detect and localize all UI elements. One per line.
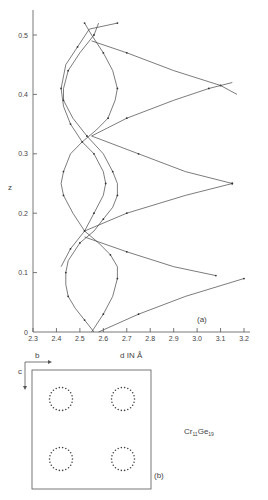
c-axis-label: c [18, 367, 22, 376]
x-tick-label: 2.5 [75, 335, 85, 342]
y-tick-label: 0.2 [18, 210, 28, 217]
curve-branch-low-upper [85, 237, 216, 276]
y-tick-label: 0.1 [18, 269, 28, 276]
figure: 00.10.20.30.40.5 2.32.42.52.62.72.82.93.… [0, 0, 268, 500]
x-tick-label: 2.8 [145, 335, 155, 342]
c-arrowhead-icon [23, 386, 27, 390]
curve-branch-top [92, 41, 237, 95]
x-tick-label: 2.6 [98, 335, 108, 342]
unit-cell-box [32, 370, 151, 489]
b-arrowhead-icon [48, 360, 52, 364]
curve-branch-top-lower [92, 83, 233, 137]
x-tick-label: 2.4 [52, 335, 62, 342]
y-axis-label: z [8, 183, 12, 192]
x-axis-label: d IN Å [120, 351, 143, 360]
panel-b: b c (b) Cr11Ge19 [18, 351, 214, 489]
curve-branch-bottom [99, 279, 244, 333]
panel-a-label: (a) [197, 315, 207, 324]
compound-formula: Cr11Ge19 [184, 427, 214, 437]
x-tick-label: 2.3 [28, 335, 38, 342]
y-tick-label: 0.5 [18, 32, 28, 39]
x-tick-label: 2.9 [169, 335, 179, 342]
curve-branch-mid-upper [92, 136, 233, 184]
curve-helix-3 [61, 23, 117, 267]
curve-helix-1 [64, 23, 118, 332]
y-tick-label: 0.4 [18, 91, 28, 98]
y-tick-label: 0.3 [18, 150, 28, 157]
x-tick-label: 3.0 [192, 335, 202, 342]
y-ticks: 00.10.20.30.40.5 [18, 32, 37, 336]
curve-branch-mid-lower [85, 184, 233, 232]
helix-projections [49, 387, 136, 471]
x-ticks: 2.32.42.52.62.72.82.93.03.13.2 [28, 328, 249, 342]
x-tick-label: 3.1 [216, 335, 226, 342]
curve-helix-2 [61, 23, 117, 332]
panel-b-label: (b) [154, 471, 164, 480]
plot-curves [60, 22, 245, 332]
b-axis-label: b [35, 351, 40, 360]
x-tick-label: 2.7 [122, 335, 132, 342]
x-tick-label: 3.2 [239, 335, 249, 342]
